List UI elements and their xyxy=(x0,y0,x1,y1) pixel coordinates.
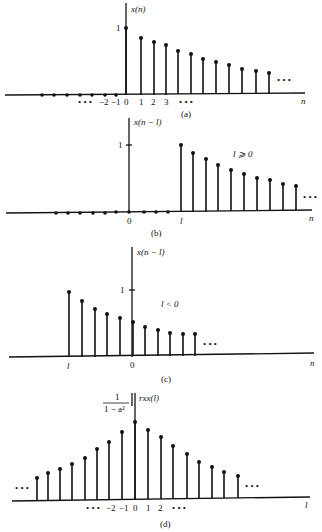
stems xyxy=(124,26,271,95)
tick-0: 0 xyxy=(133,503,138,513)
tick-minus-1: −1 xyxy=(111,97,121,107)
tick-minus-1: −1 xyxy=(119,503,129,513)
panel-d: 1 1 − a² rxx(l) • • • • • • • • • −2 −1 … xyxy=(12,392,310,529)
x-axis-label: n xyxy=(309,213,314,223)
tick-1: 1 xyxy=(139,97,144,107)
one-label: 1 xyxy=(120,285,125,295)
tick-0: 0 xyxy=(124,97,129,107)
x-axis-label: l xyxy=(305,500,308,510)
panel-b: x(n − l) 1 l ⩾ 0 • • • 0 l n (b) xyxy=(6,117,317,238)
tick-ellipsis-left: • • • xyxy=(86,503,100,513)
y-axis-label: rxx(l) xyxy=(139,393,159,403)
ellipsis-left: • • • xyxy=(15,483,29,493)
y-axis-label: x(n) xyxy=(130,4,146,14)
one-label: 1 xyxy=(118,140,123,150)
x-axis xyxy=(9,353,314,357)
x-axis-label: n xyxy=(301,96,306,106)
l-label: l xyxy=(67,361,70,371)
one-label: 1 xyxy=(116,23,121,33)
condition-label: l < 0 xyxy=(161,299,179,309)
caption-b: (b) xyxy=(151,228,162,238)
tick-minus-2: −2 xyxy=(106,503,116,513)
peak-label-denominator: 1 − a² xyxy=(104,404,125,414)
tick-2: 2 xyxy=(151,97,156,107)
x-axis xyxy=(5,93,305,95)
caption-d: (d) xyxy=(160,519,171,529)
stems xyxy=(35,420,240,500)
ellipsis-right: • • • xyxy=(245,481,259,491)
y-axis-label: x(n − l) xyxy=(133,117,162,127)
ellipsis: • • • xyxy=(203,339,217,349)
tick-2: 2 xyxy=(158,503,163,513)
y-axis-label: x(n − l) xyxy=(136,247,165,257)
ellipsis: • • • xyxy=(277,75,291,85)
zero-label: 0 xyxy=(127,216,132,226)
caption-a: (a) xyxy=(181,109,191,119)
peak-label-numerator: 1 xyxy=(115,392,120,402)
x-axis xyxy=(6,210,312,213)
caption-c: (c) xyxy=(161,374,171,384)
tick-minus-2: −2 xyxy=(99,97,109,107)
x-axis-label: n xyxy=(310,358,315,368)
tick-3: 3 xyxy=(164,97,169,107)
autocorrelation-figure: x(n) 1 • • • n • • • −2 −1 0 1 2 3 • • •… xyxy=(0,0,322,532)
tick-1: 1 xyxy=(146,503,151,513)
panel-c: x(n − l) 1 l < 0 • • • l 0 n (c) xyxy=(9,247,315,384)
tick-ellipsis-right: • • • xyxy=(179,97,193,107)
tick-ellipsis-left: • • • xyxy=(78,97,92,107)
tick-ellipsis-right: • • • xyxy=(172,503,186,513)
panel-a: x(n) 1 • • • n • • • −2 −1 0 1 2 3 • • •… xyxy=(5,3,306,119)
l-label: l xyxy=(180,216,183,226)
zero-label: 0 xyxy=(130,360,135,370)
condition-label: l ⩾ 0 xyxy=(233,149,253,159)
ellipsis: • • • xyxy=(303,192,317,202)
